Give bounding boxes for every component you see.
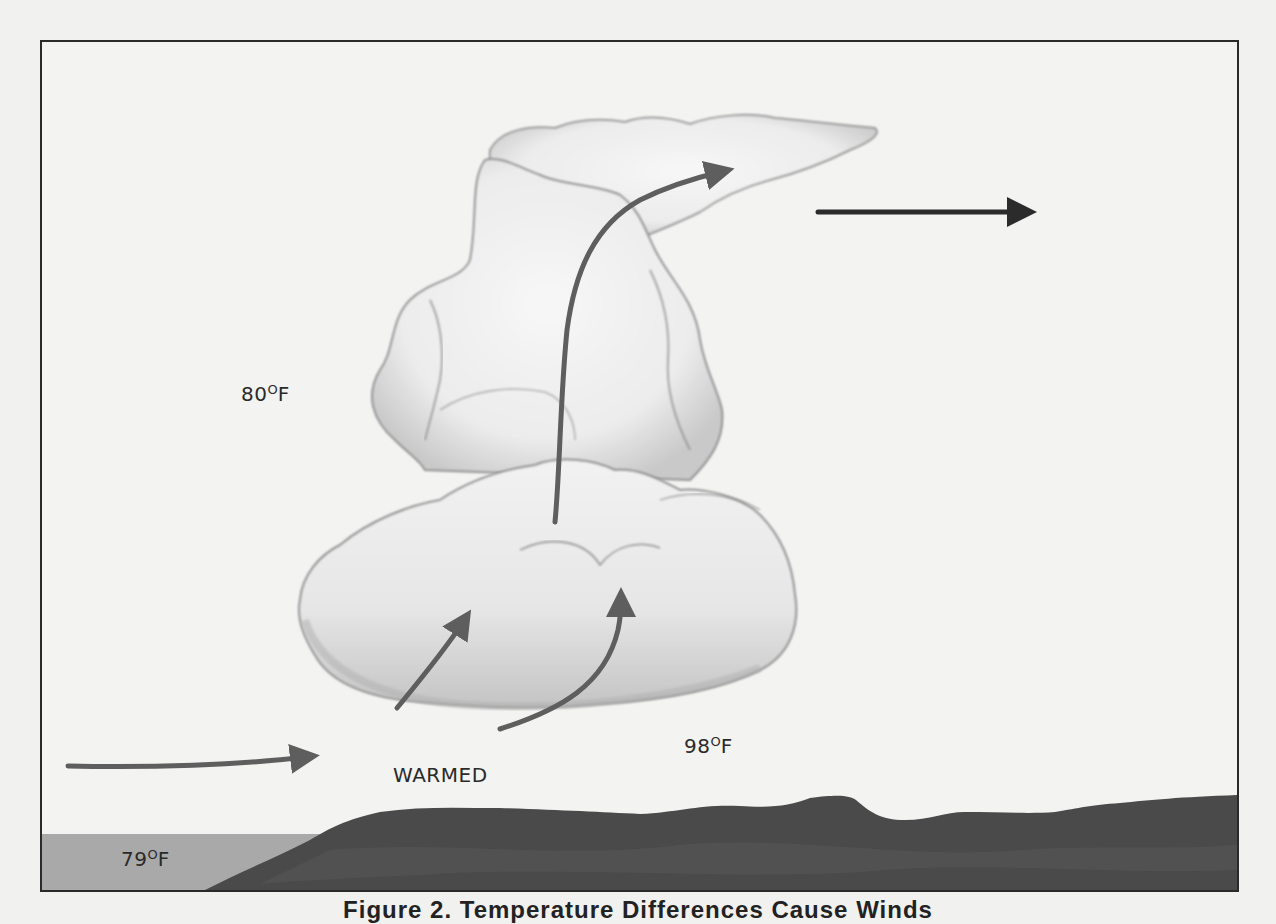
- degree-symbol: O: [267, 382, 277, 397]
- figure-caption: Figure 2. Temperature Differences Cause …: [0, 896, 1276, 924]
- warmed-text: WARMED: [393, 763, 488, 787]
- degree-symbol: O: [147, 847, 157, 862]
- upper-air-temp-value: 80: [241, 382, 267, 406]
- upper-air-temp-label: 80OF: [241, 382, 290, 406]
- sea-temp-value: 79: [121, 847, 147, 871]
- degree-unit: F: [278, 382, 290, 406]
- degree-unit: F: [721, 734, 733, 758]
- degree-unit: F: [158, 847, 170, 871]
- land-air-temp-label: 98OF: [684, 734, 733, 758]
- land-air-temp-value: 98: [684, 734, 710, 758]
- degree-symbol: O: [710, 734, 720, 749]
- sea-temp-label: 79OF: [121, 847, 170, 871]
- warmed-label: WARMED: [393, 763, 488, 787]
